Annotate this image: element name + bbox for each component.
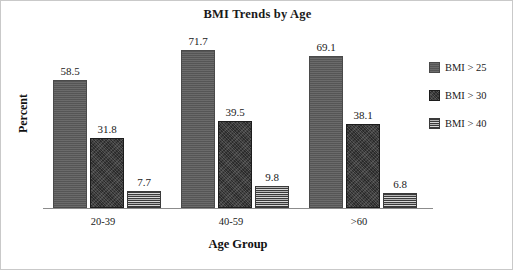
legend-swatch-icon [429, 118, 440, 129]
x-axis-title: Age Group [43, 237, 433, 252]
x-tick-label: 40-59 [176, 216, 286, 227]
bar-group: 71.7 39.5 9.8 [171, 31, 291, 208]
bar[interactable] [255, 186, 289, 208]
bar-value-label: 71.7 [172, 35, 224, 47]
bmi-bar-chart: BMI Trends by Age 58.5 31.8 7.7 71.7 [0, 0, 513, 270]
legend: BMI > 25 BMI > 30 BMI > 40 [429, 53, 511, 137]
legend-label: BMI > 25 [445, 62, 487, 73]
bar-value-label: 69.1 [300, 41, 352, 53]
bar[interactable] [181, 50, 215, 208]
bar-value-label: 39.5 [209, 106, 261, 118]
bar[interactable] [383, 193, 417, 208]
legend-swatch-icon [429, 90, 440, 101]
legend-swatch-icon [429, 62, 440, 73]
x-tick-label: 20-39 [48, 216, 158, 227]
bar-value-label: 6.8 [374, 178, 426, 190]
bar-group: 58.5 31.8 7.7 [43, 31, 163, 208]
chart-title: BMI Trends by Age [1, 7, 513, 22]
bar-value-label: 7.7 [118, 176, 170, 188]
bar[interactable] [90, 138, 124, 208]
bar-value-label: 38.1 [337, 109, 389, 121]
x-tick-label: >60 [304, 216, 414, 227]
legend-label: BMI > 30 [445, 90, 487, 101]
legend-item[interactable]: BMI > 40 [429, 109, 511, 137]
bar-value-label: 31.8 [81, 123, 133, 135]
bar-value-label: 58.5 [44, 65, 96, 77]
bar[interactable] [53, 80, 87, 208]
bar[interactable] [346, 124, 380, 208]
bar[interactable] [218, 121, 252, 208]
bar[interactable] [127, 191, 161, 208]
bar[interactable] [309, 56, 343, 208]
legend-item[interactable]: BMI > 30 [429, 81, 511, 109]
x-axis-line [43, 208, 433, 209]
y-axis-title: Percent [16, 69, 31, 159]
legend-item[interactable]: BMI > 25 [429, 53, 511, 81]
bar-group: 69.1 38.1 6.8 [299, 31, 419, 208]
bar-value-label: 9.8 [246, 171, 298, 183]
legend-label: BMI > 40 [445, 118, 487, 129]
plot-area: 58.5 31.8 7.7 71.7 39.5 9.8 [43, 31, 428, 208]
